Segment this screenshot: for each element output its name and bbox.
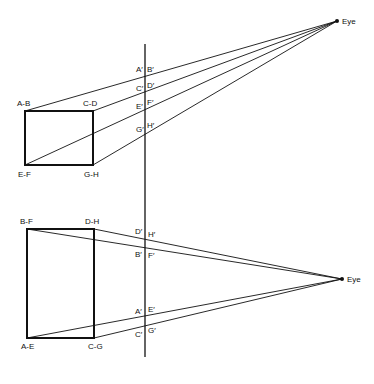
ray-cd <box>93 21 337 111</box>
side-view: Eye B-F D-H A-E C-G D′ H′ B′ F′ A′ E′ C′… <box>20 217 361 351</box>
projection-label: C′ <box>135 330 143 339</box>
ray-gh <box>93 21 337 165</box>
projection-label: A′ <box>136 65 143 74</box>
projection-label: E′ <box>148 305 155 314</box>
corner-label: E-F <box>18 170 31 179</box>
projection-label: D′ <box>135 227 143 236</box>
projection-label: A′ <box>135 307 142 316</box>
ray-cg <box>94 279 342 338</box>
projection-label: B′ <box>135 250 142 259</box>
eye-label: Eye <box>347 275 361 284</box>
projection-label: D′ <box>147 81 155 90</box>
eye-point-icon <box>340 277 344 281</box>
corner-label: D-H <box>85 217 99 226</box>
eye-label: Eye <box>342 17 356 26</box>
corner-label: B-F <box>20 217 33 226</box>
projection-label: B′ <box>147 65 154 74</box>
projection-label: H′ <box>147 121 155 130</box>
projection-label: G′ <box>136 125 144 134</box>
projection-label: H′ <box>148 230 156 239</box>
eye-point-icon <box>335 19 339 23</box>
top-view: Eye A-B C-D E-F G-H A′ B′ C′ D′ E′ F′ G′… <box>17 17 356 179</box>
ray-bf <box>27 229 342 279</box>
ray-ae <box>27 279 342 338</box>
corner-label: A-E <box>21 342 34 351</box>
projection-label: G′ <box>148 326 156 335</box>
projection-label: F′ <box>147 98 154 107</box>
corner-label: C-D <box>83 99 97 108</box>
projection-label: C′ <box>136 84 144 93</box>
corner-label: A-B <box>17 99 30 108</box>
projection-label: E′ <box>136 102 143 111</box>
ray-ab <box>25 21 337 111</box>
projection-label: F′ <box>148 251 155 260</box>
side-cube-face <box>27 229 94 338</box>
ray-dh <box>94 229 342 279</box>
perspective-diagram: Eye A-B C-D E-F G-H A′ B′ C′ D′ E′ F′ G′… <box>0 0 374 384</box>
corner-label: C-G <box>88 342 103 351</box>
ray-ef <box>25 21 337 165</box>
corner-label: G-H <box>84 170 99 179</box>
